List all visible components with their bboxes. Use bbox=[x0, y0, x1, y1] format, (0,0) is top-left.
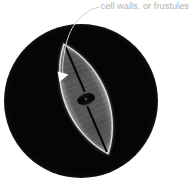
figure-canvas: cell walls, or frustules bbox=[0, 0, 189, 189]
leader-line bbox=[63, 7, 99, 76]
annotation-label: cell walls, or frustules bbox=[100, 1, 189, 12]
arrowhead bbox=[58, 72, 69, 83]
annotation-layer bbox=[0, 0, 189, 189]
